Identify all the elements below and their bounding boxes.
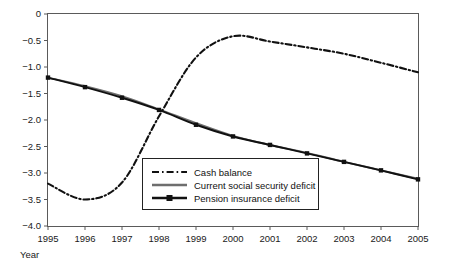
x-tick-label: 1997 <box>111 233 132 244</box>
data-point-marker <box>46 75 50 79</box>
data-point-marker <box>416 177 420 181</box>
y-tick-label: 0 <box>36 8 41 19</box>
y-tick-label: −2.0 <box>22 114 41 125</box>
legend-label-current-social-security-deficit: Current social security deficit <box>194 180 316 191</box>
y-tick-label: −3.0 <box>22 167 41 178</box>
x-axis-tick-labels: 1995199619971998199920002001200220032004… <box>37 233 428 244</box>
data-point-marker <box>268 143 272 147</box>
y-tick-label: −4.0 <box>22 220 41 231</box>
x-tick-label: 2005 <box>407 233 428 244</box>
data-point-marker <box>120 96 124 100</box>
legend-label-pension-insurance-deficit: Pension insurance deficit <box>194 193 300 204</box>
data-point-marker <box>342 160 346 164</box>
y-tick-label: −0.5 <box>22 35 41 46</box>
data-point-marker <box>157 108 161 112</box>
legend-label-cash-balance: Cash balance <box>194 167 252 178</box>
y-tick-label: −1.5 <box>22 88 41 99</box>
data-point-marker <box>83 85 87 89</box>
data-point-marker <box>194 123 198 127</box>
data-point-marker <box>379 168 383 172</box>
data-point-marker <box>305 151 309 155</box>
x-tick-label: 1999 <box>185 233 206 244</box>
y-axis-tick-labels: 0−0.5−1.0−1.5−2.0−2.5−3.0−3.5−4.0 <box>22 8 41 231</box>
square-marker-icon <box>167 195 173 201</box>
x-tick-label: 2001 <box>259 233 280 244</box>
x-tick-label: 2000 <box>222 233 243 244</box>
y-tick-label: −1.0 <box>22 61 41 72</box>
y-tick-label: −2.5 <box>22 141 41 152</box>
chart-legend: Cash balance Current social security def… <box>143 159 319 210</box>
data-point-marker <box>231 134 235 138</box>
y-tick-label: −3.5 <box>22 194 41 205</box>
x-tick-label: 1995 <box>37 233 58 244</box>
line-chart: 0−0.5−1.0−1.5−2.0−2.5−3.0−3.5−4.0 199519… <box>0 0 454 268</box>
x-tick-label: 1996 <box>74 233 95 244</box>
chart-figure: 0−0.5−1.0−1.5−2.0−2.5−3.0−3.5−4.0 199519… <box>0 0 454 268</box>
x-tick-label: 2002 <box>296 233 317 244</box>
x-axis-title: Year <box>20 249 39 260</box>
x-tick-label: 2004 <box>370 233 391 244</box>
x-tick-label: 1998 <box>148 233 169 244</box>
x-tick-label: 2003 <box>333 233 354 244</box>
